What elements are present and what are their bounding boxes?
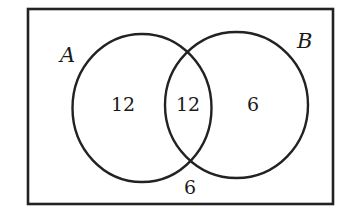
region-neither-value: 6 — [184, 176, 196, 198]
venn-diagram: A B 12 12 6 6 — [0, 0, 355, 218]
region-only-b-value: 6 — [247, 93, 259, 115]
set-b-label: B — [296, 29, 312, 53]
set-a-label: A — [58, 43, 75, 67]
region-intersection-value: 12 — [176, 93, 200, 115]
region-only-a-value: 12 — [111, 93, 135, 115]
